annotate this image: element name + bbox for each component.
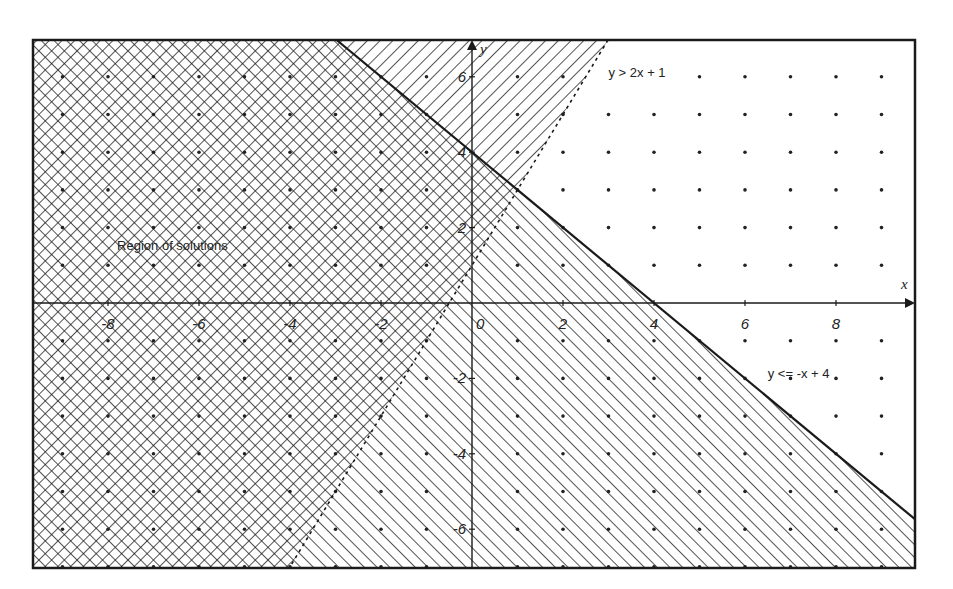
y-tick-label: 2 [457,219,467,236]
x-tick-label: -8 [101,315,115,332]
grid-dot [106,527,110,531]
grid-dot [334,150,338,154]
grid-dot [561,377,565,381]
grid-dot [106,150,110,154]
grid-dot [288,188,292,192]
grid-dot [698,452,702,456]
grid-dot [789,452,793,456]
grid-dot [288,264,292,268]
grid-dot [197,452,201,456]
grid-dot [880,339,884,343]
grid-dot [743,150,747,154]
grid-dot [698,226,702,230]
grid-dot [743,226,747,230]
grid-dot [880,150,884,154]
grid-dot [516,527,520,531]
y-tick-label: -2 [453,369,467,386]
grid-dot [834,414,838,418]
grid-dot [243,377,247,381]
grid-dot [789,339,793,343]
grid-dot [425,452,429,456]
grid-dot [425,188,429,192]
y-tick-label: -4 [453,445,466,462]
y-tick-label: 4 [458,143,466,160]
grid-dot [880,188,884,192]
grid-dot [789,150,793,154]
grid-dot [334,226,338,230]
grid-dot [607,188,611,192]
grid-dot [561,339,565,343]
grid-dot [698,414,702,418]
grid-dot [106,414,110,418]
grid-dot [789,264,793,268]
grid-dot [288,452,292,456]
grid-dot [698,527,702,531]
x-axis-label: x [900,276,908,292]
grid-dot [880,452,884,456]
grid-dot [561,414,565,418]
x-tick-label: -6 [192,315,206,332]
grid-dot [652,188,656,192]
grid-dot [106,113,110,117]
grid-dot [197,414,201,418]
grid-dot [334,377,338,381]
grid-dot [789,188,793,192]
grid-dot [607,377,611,381]
grid-dot [288,527,292,531]
grid-dot [61,75,65,79]
grid-dot [516,414,520,418]
grid-dot [106,188,110,192]
grid-dot [516,75,520,79]
grid-dot [197,75,201,79]
grid-dot [789,113,793,117]
grid-dot [334,339,338,343]
grid-dot [379,226,383,230]
grid-dot [880,226,884,230]
grid-dot [607,414,611,418]
grid-dot [652,113,656,117]
grid-dot [106,490,110,494]
y-axis-label: y [478,41,487,57]
grid-dot [334,452,338,456]
grid-dot [152,75,156,79]
grid-dot [288,226,292,230]
grid-dot [106,452,110,456]
grid-dot [698,377,702,381]
grid-dot [379,339,383,343]
grid-dot [106,377,110,381]
grid-dot [516,113,520,117]
grid-dot [243,264,247,268]
grid-dot [152,150,156,154]
grid-dot [652,339,656,343]
grid-dot [425,377,429,381]
grid-dot [607,452,611,456]
grid-dot [334,75,338,79]
grid-dot [607,226,611,230]
grid-dot [334,188,338,192]
grid-dot [789,527,793,531]
grid-dot [425,150,429,154]
grid-dot [379,377,383,381]
x-axis-arrow-icon [905,298,915,308]
annotation-line1: y > 2x + 1 [609,65,666,80]
grid-dot [243,452,247,456]
grid-dot [743,264,747,268]
grid-dot [743,339,747,343]
inequality-chart: xy -8-6-4-202468-6-4-2246 y > 2x + 1y <=… [0,0,953,589]
grid-dot [516,150,520,154]
grid-dot [516,490,520,494]
grid-dot [106,339,110,343]
grid-dot [425,264,429,268]
grid-dot [652,150,656,154]
x-tick-label: 0 [476,315,485,332]
grid-dot [243,226,247,230]
annotation-line2: y <= -x + 4 [768,366,830,381]
grid-dot [834,490,838,494]
grid-dot [334,264,338,268]
grid-dot [425,75,429,79]
grid-dot [652,377,656,381]
grid-dot [61,452,65,456]
grid-dot [880,377,884,381]
grid-dot [61,339,65,343]
grid-dot [61,226,65,230]
